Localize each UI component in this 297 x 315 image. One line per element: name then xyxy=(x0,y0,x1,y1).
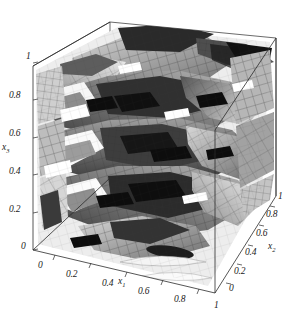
axis-x3-tick: 0.4 xyxy=(9,166,20,176)
surface-global-mesh xyxy=(36,26,270,286)
axis-x2-tick: 0 xyxy=(229,283,234,293)
axis-x1-label-sub: 1 xyxy=(122,281,125,288)
axis-x1-tick: 0.4 xyxy=(102,278,113,288)
axis-x3-tick: 1 xyxy=(26,51,31,61)
axis-x2-tick: 0.6 xyxy=(256,228,267,238)
axis-x1-label: x1 xyxy=(118,276,125,288)
axis-x2-label-sub: 2 xyxy=(272,246,275,253)
axis-x3-tick: 0 xyxy=(21,241,26,251)
axis-x3-label: x3 xyxy=(2,142,9,154)
axis-x3-label-sub: 3 xyxy=(6,147,9,154)
axis-x2-tick: 0.4 xyxy=(245,247,256,257)
axis-x2-tick: 1 xyxy=(278,191,283,201)
axis-x1-tick: 0.2 xyxy=(66,269,77,279)
isosurface-3d-figure: 1 0.8 0.6 0.4 0.2 0 x3 0 0.2 0.4 0.6 0.8… xyxy=(0,0,297,315)
axis-x2-label: x2 xyxy=(268,241,275,253)
axis-x1-tick: 0.8 xyxy=(174,294,185,304)
axis-x2-tick: 0.8 xyxy=(266,209,277,219)
plot-canvas xyxy=(0,0,297,315)
axis-x3-tick: 0.2 xyxy=(9,204,20,214)
axis-x2-tick: 0.2 xyxy=(234,266,245,276)
axis-x1-tick: 1 xyxy=(214,300,219,310)
axis-x1-tick: 0 xyxy=(38,260,43,270)
isosurface-body xyxy=(36,24,274,286)
axis-x1-tick: 0.6 xyxy=(138,286,149,296)
axis-x3-tick: 0.8 xyxy=(9,90,20,100)
axis-x3-tick: 0.6 xyxy=(9,128,20,138)
